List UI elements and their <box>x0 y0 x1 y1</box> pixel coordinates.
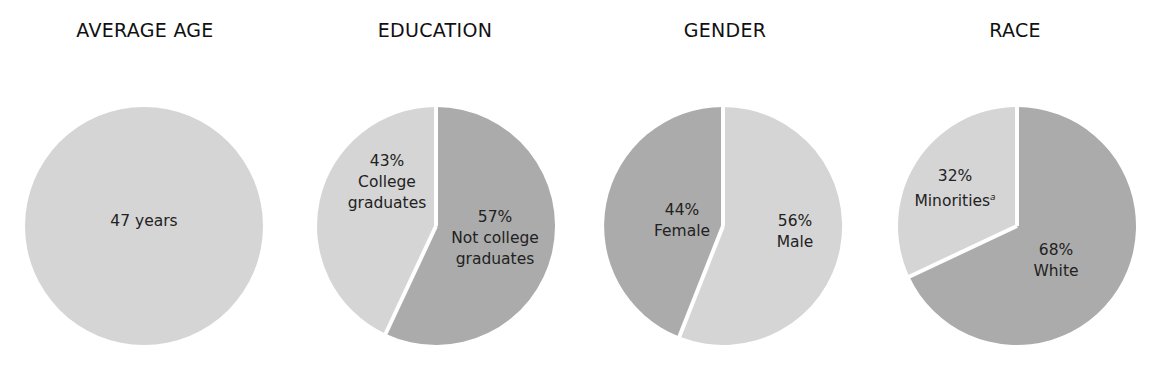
slice-percent: 56% <box>755 211 835 232</box>
label-college-graduates: 43% College graduates <box>342 151 432 214</box>
chart-title-average-age: AVERAGE AGE <box>0 19 290 41</box>
slice-label: graduates <box>435 249 555 270</box>
chart-title-gender: GENDER <box>580 19 870 41</box>
slice-label: graduates <box>342 193 432 214</box>
slice-label: White <box>1016 261 1096 282</box>
panel-race: RACE 32% Minoritiesa 68% White <box>870 0 1160 367</box>
slice-label: Female <box>642 221 722 242</box>
slice-label: Not college <box>435 228 555 249</box>
panel-average-age: AVERAGE AGE 47 years <box>0 0 290 367</box>
label-male: 56% Male <box>755 211 835 253</box>
label-female: 44% Female <box>642 200 722 242</box>
panel-education: EDUCATION 43% College graduates 57% Not … <box>290 0 580 367</box>
label-average-age: 47 years <box>24 211 264 232</box>
slice-percent: 43% <box>342 151 432 172</box>
slice-label: Male <box>755 232 835 253</box>
slice-percent: 68% <box>1016 240 1096 261</box>
slice-percent: 44% <box>642 200 722 221</box>
slice-label: College <box>342 172 432 193</box>
slice-percent: 32% <box>900 166 1010 187</box>
chart-title-race: RACE <box>870 19 1160 41</box>
pie-graphic-race <box>897 106 1137 346</box>
label-minorities: 32% Minoritiesa <box>900 166 1010 212</box>
label-white: 68% White <box>1016 240 1096 282</box>
slice-label-minorities: Minoritiesa <box>900 187 1010 212</box>
panel-gender: GENDER 44% Female 56% Male <box>580 0 870 367</box>
slice-percent: 57% <box>435 207 555 228</box>
average-age-value: 47 years <box>24 211 264 232</box>
label-not-college-graduates: 57% Not college graduates <box>435 207 555 270</box>
footnote-marker: a <box>990 192 996 202</box>
slice-label: Minorities <box>914 192 990 210</box>
pie-race <box>897 106 1137 346</box>
chart-title-education: EDUCATION <box>290 19 580 41</box>
